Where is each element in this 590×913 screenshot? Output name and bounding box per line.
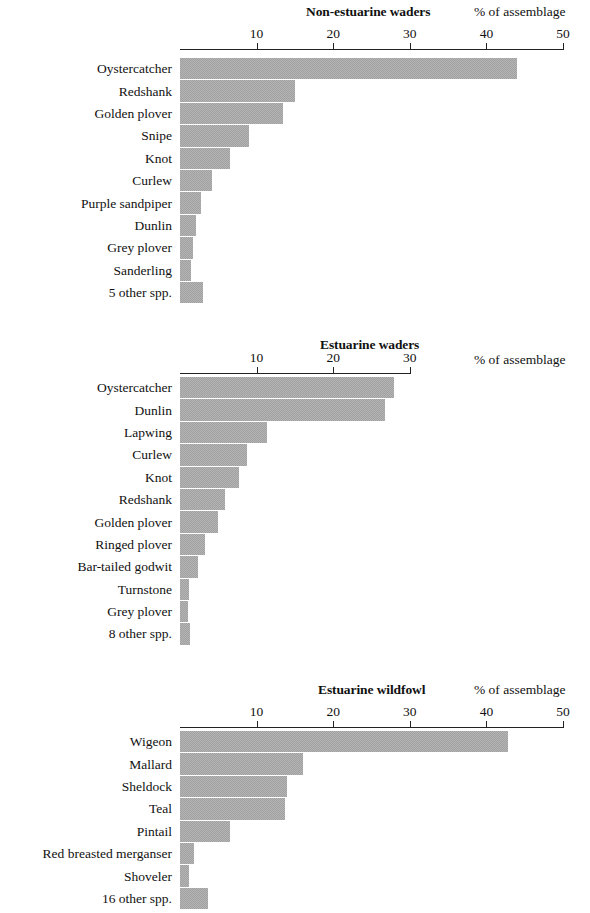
category-label: Snipe	[141, 130, 172, 144]
x-tick-mark	[257, 43, 258, 50]
x-tick-label: 20	[326, 704, 340, 720]
x-tick-label: 30	[403, 26, 417, 42]
bar-row: Knot	[0, 148, 590, 170]
x-tick-label: 20	[326, 350, 340, 366]
x-axis: 1020304050	[0, 704, 590, 728]
bar	[180, 58, 517, 80]
category-label: Knot	[145, 471, 172, 485]
bar-row: Sheldock	[0, 776, 590, 798]
bar	[180, 215, 196, 237]
bar	[180, 843, 194, 865]
bar	[180, 579, 189, 601]
bar	[180, 103, 283, 125]
bar-row: Curlew	[0, 444, 590, 466]
chart-2: Estuarine waders% of assemblage102030Oys…	[0, 337, 590, 359]
bar-row: Golden plover	[0, 511, 590, 533]
category-label: Oystercatcher	[97, 381, 172, 395]
bar-row: Redshank	[0, 80, 590, 102]
bar	[180, 422, 267, 444]
category-label: 16 other spp.	[102, 892, 172, 906]
bar-row: Knot	[0, 467, 590, 489]
bar	[180, 534, 205, 556]
bar-row: Golden plover	[0, 103, 590, 125]
chart-3: Estuarine wildfowl% of assemblage1020304…	[0, 682, 590, 704]
bar-row: Purple sandpiper	[0, 192, 590, 214]
bar	[180, 865, 189, 887]
category-label: 5 other spp.	[109, 286, 172, 300]
x-tick-mark	[257, 721, 258, 728]
bar	[180, 821, 230, 843]
category-label: Bar-tailed godwit	[77, 561, 172, 575]
bar-row: Mallard	[0, 753, 590, 775]
x-tick-label: 10	[250, 704, 264, 720]
x-tick-mark	[257, 367, 258, 374]
category-label: Oystercatcher	[97, 62, 172, 76]
category-label: Golden plover	[94, 516, 172, 530]
category-label: Redshank	[119, 493, 172, 507]
bar	[180, 489, 225, 511]
category-label: Curlew	[132, 174, 172, 188]
figure-canvas: Non-estuarine waders% of assemblage10203…	[0, 0, 590, 913]
bar-row: 8 other spp.	[0, 623, 590, 645]
x-tick-label: 30	[403, 350, 417, 366]
bar	[180, 237, 193, 259]
bar-row: Shoveler	[0, 865, 590, 887]
bar	[180, 260, 191, 282]
x-tick-label: 40	[480, 704, 494, 720]
category-label: Grey plover	[107, 242, 172, 256]
bar	[180, 798, 285, 820]
bar-row: Sanderling	[0, 260, 590, 282]
bar	[180, 731, 508, 753]
bar	[180, 511, 218, 533]
category-label: Golden plover	[94, 107, 172, 121]
category-label: Teal	[149, 803, 172, 817]
x-axis-line	[180, 49, 563, 50]
x-tick-mark	[410, 367, 411, 374]
x-axis-unit-label: % of assemblage	[474, 4, 565, 20]
bar	[180, 601, 188, 623]
bar-row: Pintail	[0, 821, 590, 843]
bar-row: 5 other spp.	[0, 282, 590, 304]
x-tick-mark	[333, 367, 334, 374]
bar-row: Redshank	[0, 489, 590, 511]
category-label: Turnstone	[118, 583, 172, 597]
x-tick-label: 50	[556, 26, 570, 42]
category-label: Shoveler	[124, 870, 172, 884]
category-label: Dunlin	[134, 404, 172, 418]
x-tick-label: 10	[250, 26, 264, 42]
category-label: Knot	[145, 152, 172, 166]
bar-row: Wigeon	[0, 731, 590, 753]
category-label: Red breasted merganser	[43, 847, 172, 861]
chart-header: Non-estuarine waders% of assemblage	[0, 4, 590, 26]
bar-row: Grey plover	[0, 601, 590, 623]
chart-header: Estuarine wildfowl% of assemblage	[0, 682, 590, 704]
bar	[180, 444, 247, 466]
bar	[180, 623, 190, 645]
chart-title: Estuarine wildfowl	[318, 682, 425, 698]
x-tick-mark	[410, 721, 411, 728]
bar	[180, 192, 201, 214]
category-label: Purple sandpiper	[81, 197, 172, 211]
bar-row: Ringed plover	[0, 534, 590, 556]
bar	[180, 776, 287, 798]
x-axis-line	[180, 727, 563, 728]
x-tick-label: 50	[556, 704, 570, 720]
bar	[180, 148, 230, 170]
bar	[180, 80, 295, 102]
plot-area: OystercatcherRedshankGolden ploverSnipeK…	[0, 58, 590, 304]
bar-row: 16 other spp.	[0, 888, 590, 910]
bar	[180, 399, 385, 421]
category-label: Wigeon	[130, 735, 172, 749]
category-label: Ringed plover	[95, 538, 172, 552]
x-tick-mark	[333, 721, 334, 728]
category-label: Grey plover	[107, 605, 172, 619]
bar	[180, 125, 249, 147]
x-tick-label: 40	[480, 26, 494, 42]
bar	[180, 888, 208, 910]
plot-area: OystercatcherDunlinLapwingCurlewKnotReds…	[0, 377, 590, 646]
bar-row: Teal	[0, 798, 590, 820]
bar	[180, 556, 198, 578]
x-tick-mark	[410, 43, 411, 50]
x-axis-unit-label: % of assemblage	[474, 682, 565, 698]
bar-row: Dunlin	[0, 399, 590, 421]
